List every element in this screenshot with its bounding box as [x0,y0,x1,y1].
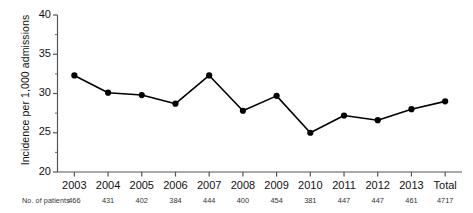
data-point-marker [240,108,246,114]
y-tick-label: 20 [29,165,51,177]
data-point-marker [274,93,280,99]
data-point-marker [408,106,414,112]
y-tick-marks [53,15,58,172]
data-point-marker [375,117,381,123]
data-point-marker [172,101,178,107]
data-point-marker [341,112,347,118]
incidence-line-chart-figure: Incidence per 1,000 admissions 202530354… [0,0,473,213]
data-point-marker [442,98,448,104]
x-tick-label: Total [425,179,465,191]
data-point-marker [139,92,145,98]
x-tick-marks [74,172,445,177]
y-tick-label: 40 [29,8,51,20]
footer-patient-count: 4717 [425,196,465,205]
y-tick-label: 25 [29,125,51,137]
y-tick-label: 35 [29,47,51,59]
data-line [74,75,445,132]
data-point-marker [307,130,313,136]
data-point-marker [206,72,212,78]
data-point-marker [105,90,111,96]
data-point-marker [71,72,77,78]
y-tick-label: 30 [29,86,51,98]
